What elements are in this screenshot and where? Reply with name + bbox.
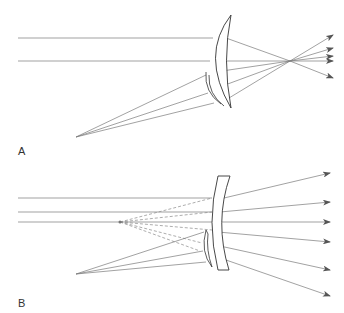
panel-label-b: B xyxy=(18,297,25,309)
virtual-rays-b xyxy=(120,198,212,251)
meniscus-lens-a xyxy=(216,15,232,108)
optics-diagram xyxy=(0,0,344,313)
point-source-rays-a xyxy=(76,61,290,137)
virtual-focus-point xyxy=(119,221,122,224)
panel-b xyxy=(18,173,330,296)
meniscus-lens-b xyxy=(212,176,230,270)
bifocal-segment-b xyxy=(204,230,212,267)
output-rays-b xyxy=(218,173,330,296)
panel-label-a: A xyxy=(18,145,25,157)
parallel-rays-a xyxy=(18,38,290,61)
output-rays-a xyxy=(290,35,333,78)
panel-a xyxy=(18,15,333,137)
parallel-rays-b xyxy=(18,198,212,222)
point-source-rays-b xyxy=(76,232,206,274)
